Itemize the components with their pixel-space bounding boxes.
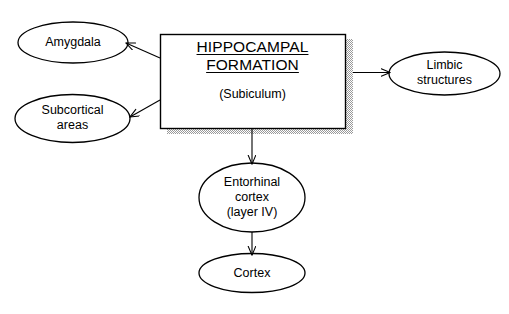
arrow-to-amygdala: [126, 43, 160, 58]
node-cortex-outline[interactable]: [199, 254, 305, 293]
diagram-vector-layer: [0, 0, 509, 314]
node-subcortical-outline[interactable]: [15, 95, 130, 143]
node-limbic-outline[interactable]: [389, 52, 500, 95]
node-amygdala-outline[interactable]: [18, 22, 128, 63]
node-entorhinal-outline[interactable]: [199, 163, 305, 232]
arrow-to-subcortical: [130, 100, 160, 117]
central-box-outline[interactable]: [161, 35, 346, 129]
diagram-canvas: HIPPOCAMPAL FORMATION (Subiculum) Amygda…: [0, 0, 509, 314]
